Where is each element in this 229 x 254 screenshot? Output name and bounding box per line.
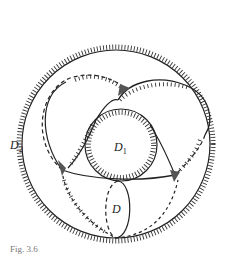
label-disc: D	[112, 202, 121, 217]
hatch-left-inner	[70, 125, 92, 165]
hatch-right-top	[120, 84, 190, 100]
corner-mark-top	[118, 84, 130, 96]
lobe-bottom-edge	[62, 170, 175, 179]
hatch-right	[178, 140, 200, 172]
figure-caption: Fig. 3.6	[10, 244, 38, 254]
label-inner-disc: D1	[114, 140, 127, 156]
lobe-inner-left	[68, 100, 118, 168]
lobe-inner-right	[150, 125, 175, 175]
hatch-bottom-left	[64, 180, 105, 232]
hatch-top	[75, 77, 122, 88]
label-outer-disc: D2	[10, 138, 23, 154]
lobe-left-top	[42, 75, 125, 170]
lobe-left-edge	[45, 82, 66, 170]
